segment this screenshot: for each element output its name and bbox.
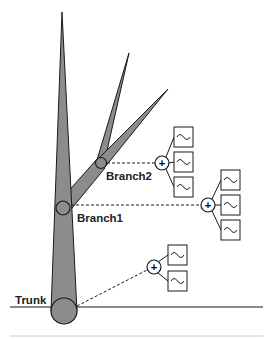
plus-symbol: +: [205, 199, 211, 211]
oscillator-icon: [221, 195, 240, 215]
branch2-summing-group: +: [155, 127, 193, 197]
oscillator-icon: [221, 220, 240, 240]
oscillator-icon: [168, 245, 187, 265]
oscillator-icon: [221, 170, 240, 190]
label-trunk: Trunk: [15, 294, 47, 306]
branch1-cross-section: [56, 201, 70, 215]
oscillator-icon: [168, 271, 187, 291]
oscillator-icon: [174, 152, 193, 172]
trunk-summing-group: +: [147, 245, 187, 291]
label-branch1: Branch1: [77, 212, 124, 224]
plus-symbol: +: [159, 157, 165, 169]
oscillator-icon: [174, 177, 193, 197]
tree-diagram: Branch2 Branch1 Trunk + +: [0, 0, 273, 339]
branch2-cross-section: [96, 158, 107, 169]
oscillator-icon: [174, 127, 193, 147]
trunk-cross-section: [51, 298, 77, 324]
plus-symbol: +: [151, 261, 157, 273]
branch1-summing-group: +: [201, 170, 240, 240]
label-branch2: Branch2: [106, 170, 152, 182]
trunk-shape: [51, 12, 77, 311]
trunk-connector: [77, 270, 147, 306]
